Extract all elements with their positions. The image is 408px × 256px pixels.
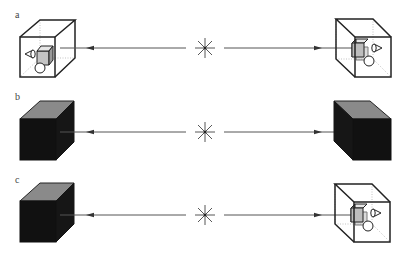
- black-cube-right-b: [334, 101, 391, 160]
- row-c: [20, 183, 390, 242]
- black-cube-left-b: [20, 101, 74, 160]
- bidirectional-arrow-c: [60, 205, 352, 225]
- bidirectional-arrow-a: [60, 38, 352, 58]
- row-b: [20, 101, 391, 160]
- bidirectional-arrow-b: [60, 122, 352, 142]
- black-cube-left-c: [20, 183, 74, 242]
- figure: a b c: [0, 0, 408, 256]
- row-a: [20, 19, 391, 77]
- transparent-cube-right-c: [335, 184, 390, 242]
